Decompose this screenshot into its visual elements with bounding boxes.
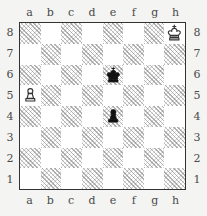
square-a8[interactable] [20,23,41,44]
square-g5[interactable] [144,85,165,106]
file-label-h-bottom: h [165,194,186,208]
file-label-a-top: a [19,6,40,20]
square-b5[interactable] [41,85,62,106]
square-h5[interactable] [164,85,185,106]
square-f7[interactable] [123,44,144,65]
square-d4[interactable] [82,106,103,127]
file-labels-top: a b c d e f g h [19,6,186,20]
rank-labels-right: 8 7 6 5 4 3 2 1 [189,22,205,190]
square-b7[interactable] [41,44,62,65]
square-f4[interactable] [123,106,144,127]
rank-label-3-right: 3 [189,127,205,148]
square-c1[interactable] [61,168,82,189]
square-d1[interactable] [82,168,103,189]
file-label-a-bottom: a [19,194,40,208]
square-d6[interactable] [82,65,103,86]
file-label-e-bottom: e [103,194,124,208]
square-g8[interactable] [144,23,165,44]
square-b6[interactable] [41,65,62,86]
square-f2[interactable] [123,148,144,169]
rank-label-8-right: 8 [189,22,205,43]
file-label-d-top: d [82,6,103,20]
rank-label-2-right: 2 [189,148,205,169]
square-g4[interactable] [144,106,165,127]
rank-label-7-left: 7 [2,43,18,64]
black-pawn-icon[interactable] [103,106,124,127]
square-a3[interactable] [20,127,41,148]
file-labels-bottom: a b c d e f g h [19,194,186,208]
square-g2[interactable] [144,148,165,169]
white-pawn-icon[interactable] [20,85,41,106]
chess-board[interactable] [19,22,186,190]
square-a2[interactable] [20,148,41,169]
black-king-icon[interactable] [103,65,124,86]
square-c7[interactable] [61,44,82,65]
rank-label-1-left: 1 [2,169,18,190]
square-c4[interactable] [61,106,82,127]
square-f8[interactable] [123,23,144,44]
square-h1[interactable] [164,168,185,189]
square-h8[interactable] [164,23,185,44]
square-e5[interactable] [103,85,124,106]
square-c6[interactable] [61,65,82,86]
square-a7[interactable] [20,44,41,65]
square-g7[interactable] [144,44,165,65]
square-b3[interactable] [41,127,62,148]
rank-label-4-left: 4 [2,106,18,127]
square-c8[interactable] [61,23,82,44]
square-d3[interactable] [82,127,103,148]
square-e2[interactable] [103,148,124,169]
square-c3[interactable] [61,127,82,148]
square-e8[interactable] [103,23,124,44]
square-b8[interactable] [41,23,62,44]
file-label-c-bottom: c [61,194,82,208]
rank-label-5-left: 5 [2,85,18,106]
square-a5[interactable] [20,85,41,106]
file-label-d-bottom: d [82,194,103,208]
square-f5[interactable] [123,85,144,106]
white-king-icon[interactable] [164,23,185,44]
rank-label-1-right: 1 [189,169,205,190]
square-h3[interactable] [164,127,185,148]
square-h7[interactable] [164,44,185,65]
square-a4[interactable] [20,106,41,127]
square-h2[interactable] [164,148,185,169]
file-label-h-top: h [165,6,186,20]
square-d5[interactable] [82,85,103,106]
square-a6[interactable] [20,65,41,86]
square-f1[interactable] [123,168,144,189]
square-d8[interactable] [82,23,103,44]
square-a1[interactable] [20,168,41,189]
square-g3[interactable] [144,127,165,148]
square-b2[interactable] [41,148,62,169]
file-label-g-top: g [144,6,165,20]
square-d2[interactable] [82,148,103,169]
square-g1[interactable] [144,168,165,189]
file-label-e-top: e [103,6,124,20]
square-e6[interactable] [103,65,124,86]
file-label-f-top: f [123,6,144,20]
square-f6[interactable] [123,65,144,86]
rank-label-4-right: 4 [189,106,205,127]
square-g6[interactable] [144,65,165,86]
file-label-f-bottom: f [123,194,144,208]
square-b4[interactable] [41,106,62,127]
rank-label-6-left: 6 [2,64,18,85]
square-e1[interactable] [103,168,124,189]
square-e4[interactable] [103,106,124,127]
square-c2[interactable] [61,148,82,169]
square-c5[interactable] [61,85,82,106]
file-label-c-top: c [61,6,82,20]
square-b1[interactable] [41,168,62,189]
square-d7[interactable] [82,44,103,65]
rank-label-7-right: 7 [189,43,205,64]
square-e7[interactable] [103,44,124,65]
square-f3[interactable] [123,127,144,148]
square-h4[interactable] [164,106,185,127]
file-label-b-top: b [40,6,61,20]
square-h6[interactable] [164,65,185,86]
square-e3[interactable] [103,127,124,148]
chess-diagram: a b c d e f g h 8 7 6 5 4 3 2 1 8 7 6 5 … [0,0,207,216]
rank-label-8-left: 8 [2,22,18,43]
file-label-b-bottom: b [40,194,61,208]
